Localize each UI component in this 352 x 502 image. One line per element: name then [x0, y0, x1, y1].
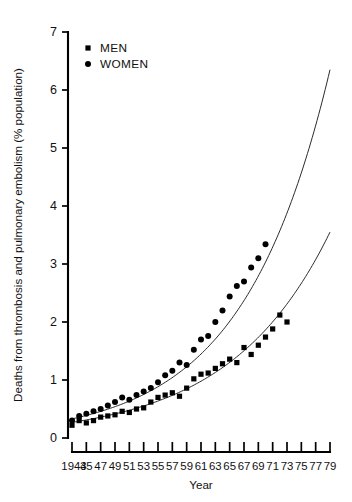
data-point-men	[249, 352, 254, 357]
x-axis-tick-label: 53	[137, 460, 150, 472]
data-point-women	[141, 389, 147, 395]
data-point-women	[76, 413, 82, 419]
x-axis-tick-label: 57	[166, 460, 179, 472]
data-point-men	[213, 366, 218, 371]
data-point-men	[134, 406, 139, 411]
y-axis-tick-label: 0	[50, 431, 57, 445]
data-point-men	[263, 334, 268, 339]
data-point-men	[256, 343, 261, 348]
x-axis-tick-label: 55	[152, 460, 165, 472]
data-point-women	[198, 336, 204, 342]
fit-curves	[72, 70, 330, 423]
x-axis-tick-label: 75	[295, 460, 308, 472]
y-axis-title: Deaths from thrombosis and pulmonary emb…	[11, 68, 24, 402]
data-point-women	[134, 392, 140, 398]
scatter-plot-svg: 01234567 1943454749515355575961636567697…	[0, 0, 352, 502]
data-point-men	[105, 413, 110, 418]
y-axis: 01234567	[50, 25, 68, 445]
axis-titles: YearDeaths from thrombosis and pulmonary…	[11, 68, 213, 491]
data-point-men	[127, 410, 132, 415]
x-axis-tick-label: 67	[238, 460, 251, 472]
fit-curve-women	[72, 70, 330, 419]
data-point-women	[263, 241, 269, 247]
data-point-men	[148, 399, 153, 404]
data-point-women	[148, 385, 154, 391]
data-point-men	[277, 312, 282, 317]
data-point-men	[284, 319, 289, 324]
data-point-women	[112, 399, 118, 405]
y-axis-tick-label: 6	[50, 83, 57, 97]
chart-legend: MENWOMEN	[85, 41, 149, 71]
data-point-women	[234, 283, 240, 289]
data-point-women	[177, 360, 183, 366]
data-point-men	[184, 386, 189, 391]
data-point-men	[206, 370, 211, 375]
x-axis-tick-label: 73	[281, 460, 294, 472]
x-axis-tick-label: 71	[266, 460, 279, 472]
x-axis-tick-label: 59	[180, 460, 193, 472]
y-axis-tick-label: 3	[50, 257, 57, 271]
data-point-men	[220, 361, 225, 366]
x-axis-title: Year	[189, 478, 213, 491]
data-point-men	[191, 376, 196, 381]
data-point-women	[184, 362, 190, 368]
legend-marker-men	[85, 45, 90, 50]
data-point-men	[227, 357, 232, 362]
data-point-women	[162, 372, 168, 378]
fit-curve-men	[72, 232, 330, 422]
data-point-men	[170, 390, 175, 395]
chart-figure: 01234567 1943454749515355575961636567697…	[0, 0, 352, 502]
x-axis-tick-label: 61	[195, 460, 208, 472]
data-point-men	[120, 409, 125, 414]
data-point-men	[112, 412, 117, 417]
data-point-women	[227, 293, 233, 299]
data-point-men	[84, 420, 89, 425]
x-axis-tick-label: 65	[223, 460, 236, 472]
data-point-men	[241, 345, 246, 350]
x-axis-tick-label: 63	[209, 460, 222, 472]
x-axis-tick-label: 47	[94, 460, 107, 472]
data-point-women	[169, 368, 175, 374]
x-axis-tick-label: 49	[109, 460, 122, 472]
legend-label-men: MEN	[100, 41, 127, 55]
y-axis-tick-label: 7	[50, 25, 57, 39]
data-point-women	[83, 411, 89, 417]
x-axis-tick-label: 51	[123, 460, 136, 472]
x-axis: 1943454749515355575961636567697173757779	[61, 442, 336, 472]
y-axis-tick-label: 4	[50, 199, 57, 213]
y-axis-tick-label: 5	[50, 141, 57, 155]
data-point-women	[119, 394, 125, 400]
legend-marker-women	[85, 61, 91, 67]
data-point-women	[105, 403, 111, 409]
data-point-men	[234, 360, 239, 365]
legend-label-women: WOMEN	[100, 57, 149, 71]
x-axis-tick-label: 79	[324, 460, 337, 472]
data-points	[69, 241, 290, 428]
data-point-women	[248, 264, 254, 270]
data-point-men	[155, 395, 160, 400]
data-point-women	[241, 278, 247, 284]
x-axis-tick-label: 45	[80, 460, 93, 472]
data-point-women	[126, 397, 132, 403]
data-point-women	[155, 379, 161, 385]
data-point-men	[98, 415, 103, 420]
data-point-women	[205, 333, 211, 339]
x-axis-tick-label: 77	[309, 460, 322, 472]
data-point-men	[198, 372, 203, 377]
data-point-women	[212, 319, 218, 325]
data-point-women	[69, 418, 75, 424]
data-point-women	[191, 347, 197, 353]
x-axis-tick-label: 69	[252, 460, 265, 472]
data-point-women	[91, 408, 97, 414]
data-point-men	[91, 418, 96, 423]
data-point-men	[177, 394, 182, 399]
data-point-women	[220, 307, 226, 313]
data-point-women	[98, 406, 104, 412]
y-axis-tick-label: 2	[50, 315, 57, 329]
data-point-women	[255, 255, 261, 261]
y-axis-tick-label: 1	[50, 373, 57, 387]
data-point-men	[163, 392, 168, 397]
data-point-men	[270, 326, 275, 331]
data-point-men	[141, 405, 146, 410]
